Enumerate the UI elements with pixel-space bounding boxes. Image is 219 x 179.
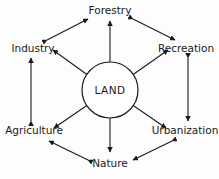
ring-link-nature-agriculture <box>49 141 88 160</box>
node-forestry-label: Forestry <box>89 4 132 16</box>
node-recreation[interactable]: Recreation <box>154 42 216 56</box>
diagram-canvas: LAND Forestry Recreation Urbanization Na… <box>0 0 219 179</box>
node-industry[interactable]: Industry <box>8 42 58 56</box>
node-nature-label: Nature <box>92 157 128 169</box>
land-label: LAND <box>95 84 126 96</box>
node-industry-label: Industry <box>11 42 54 54</box>
land-use-diagram: LAND Forestry Recreation Urbanization Na… <box>0 0 219 179</box>
center-node-land[interactable]: LAND <box>82 62 138 118</box>
node-nature[interactable]: Nature <box>90 157 132 171</box>
node-urbanization-label: Urbanization <box>152 124 219 136</box>
ring-link-urbanization-nature <box>133 141 172 160</box>
node-forestry[interactable]: Forestry <box>86 4 134 18</box>
node-urbanization[interactable]: Urbanization <box>150 124 218 138</box>
ring-link-forestry-recreation <box>133 19 175 40</box>
spoke-land-industry <box>53 50 89 76</box>
node-agriculture-label: Agriculture <box>5 124 63 136</box>
node-recreation-label: Recreation <box>158 42 214 54</box>
ring-link-industry-forestry <box>47 19 88 40</box>
node-agriculture[interactable]: Agriculture <box>2 124 68 138</box>
